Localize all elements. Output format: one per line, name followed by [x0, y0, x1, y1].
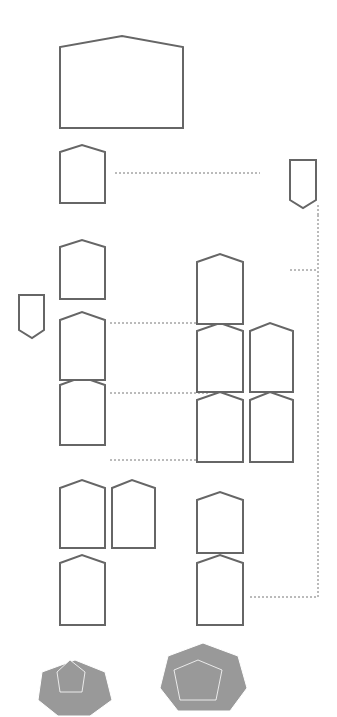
- diagram-shapes: [0, 0, 337, 717]
- hack-badge-bottom: [160, 643, 247, 711]
- diagram-canvas: [0, 0, 337, 717]
- hack-badge-top: [38, 660, 112, 716]
